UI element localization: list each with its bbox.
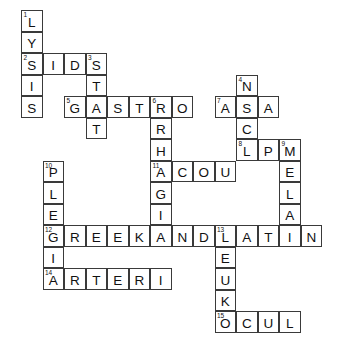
- crossword-cell[interactable]: C: [236, 311, 258, 333]
- crossword-cell[interactable]: A: [150, 225, 172, 247]
- crossword-cell[interactable]: T: [86, 75, 108, 97]
- cell-letter: O: [194, 166, 214, 180]
- crossword-cell[interactable]: K: [215, 290, 237, 312]
- crossword-cell[interactable]: R: [64, 225, 86, 247]
- crossword-cell[interactable]: I: [150, 268, 172, 290]
- crossword-cell[interactable]: D: [64, 53, 86, 75]
- cell-letter: G: [151, 188, 171, 202]
- crossword-cell[interactable]: S: [236, 96, 258, 118]
- crossword-cell[interactable]: U: [215, 161, 237, 183]
- cell-letter: E: [108, 231, 128, 245]
- crossword-cell[interactable]: E: [215, 247, 237, 269]
- crossword-cell[interactable]: 10P: [43, 161, 65, 183]
- cell-letter: L: [22, 16, 42, 30]
- crossword-cell[interactable]: Y: [21, 32, 43, 54]
- crossword-cell[interactable]: E: [43, 204, 65, 226]
- cell-letter: P: [259, 145, 279, 159]
- cell-letter: I: [22, 80, 42, 94]
- crossword-cell[interactable]: L: [279, 182, 301, 204]
- crossword-cell[interactable]: I: [43, 53, 65, 75]
- crossword-cell[interactable]: N: [301, 225, 323, 247]
- crossword-cell[interactable]: 1L: [21, 10, 43, 32]
- crossword-cell[interactable]: 13L: [215, 225, 237, 247]
- cell-letter: L: [280, 188, 300, 202]
- cell-letter: R: [65, 231, 85, 245]
- cell-letter: T: [130, 102, 150, 116]
- crossword-cell[interactable]: R: [64, 268, 86, 290]
- cell-letter: T: [87, 274, 107, 288]
- crossword-cell[interactable]: T: [129, 96, 151, 118]
- cell-letter: D: [194, 231, 214, 245]
- crossword-cell[interactable]: I: [279, 225, 301, 247]
- crossword-cell[interactable]: A: [86, 96, 108, 118]
- cell-letter: E: [87, 231, 107, 245]
- crossword-cell[interactable]: 9M: [279, 139, 301, 161]
- crossword-cell[interactable]: C: [236, 118, 258, 140]
- cell-letter: L: [44, 188, 64, 202]
- crossword-cell[interactable]: R: [150, 118, 172, 140]
- cell-letter: I: [44, 59, 64, 73]
- crossword-cell[interactable]: K: [129, 225, 151, 247]
- crossword-cell[interactable]: E: [107, 225, 129, 247]
- crossword-cell[interactable]: 4N: [236, 75, 258, 97]
- cell-letter: K: [130, 231, 150, 245]
- crossword-cell[interactable]: C: [172, 161, 194, 183]
- crossword-cell[interactable]: O: [193, 161, 215, 183]
- cell-letter: N: [302, 231, 322, 245]
- crossword-cell[interactable]: 15O: [215, 311, 237, 333]
- cell-letter: S: [87, 59, 107, 73]
- crossword-cell[interactable]: I: [150, 204, 172, 226]
- cell-letter: I: [44, 252, 64, 266]
- crossword-cell[interactable]: D: [193, 225, 215, 247]
- crossword-cell[interactable]: S: [107, 96, 129, 118]
- crossword-cell[interactable]: L: [279, 311, 301, 333]
- crossword-cell[interactable]: N: [172, 225, 194, 247]
- crossword-cell[interactable]: 14A: [43, 268, 65, 290]
- cell-letter: C: [237, 123, 257, 137]
- crossword-cell[interactable]: U: [215, 268, 237, 290]
- crossword-cell[interactable]: P: [258, 139, 280, 161]
- crossword-cell[interactable]: 12G: [43, 225, 65, 247]
- cell-letter: R: [130, 274, 150, 288]
- cell-letter: O: [173, 102, 193, 116]
- crossword-cell[interactable]: R: [129, 268, 151, 290]
- crossword-cell[interactable]: U: [258, 311, 280, 333]
- cell-letter: I: [151, 274, 171, 288]
- crossword-cell[interactable]: 5G: [64, 96, 86, 118]
- cell-letter: S: [22, 102, 42, 116]
- crossword-cell[interactable]: L: [43, 182, 65, 204]
- cell-letter: U: [216, 166, 236, 180]
- cell-letter: G: [44, 231, 64, 245]
- crossword-cell[interactable]: G: [150, 182, 172, 204]
- cell-letter: T: [259, 231, 279, 245]
- crossword-cell[interactable]: T: [86, 268, 108, 290]
- cell-letter: U: [216, 274, 236, 288]
- cell-letter: S: [237, 102, 257, 116]
- crossword-cell[interactable]: T: [258, 225, 280, 247]
- crossword-cell[interactable]: 8L: [236, 139, 258, 161]
- cell-letter: C: [173, 166, 193, 180]
- crossword-cell[interactable]: A: [279, 204, 301, 226]
- crossword-cell[interactable]: E: [279, 161, 301, 183]
- cell-letter: N: [237, 80, 257, 94]
- crossword-cell[interactable]: 3S: [86, 53, 108, 75]
- cell-letter: I: [151, 209, 171, 223]
- crossword-cell[interactable]: I: [43, 247, 65, 269]
- cell-letter: S: [22, 59, 42, 73]
- crossword-cell[interactable]: 2S: [21, 53, 43, 75]
- crossword-cell[interactable]: T: [86, 118, 108, 140]
- cell-letter: G: [65, 102, 85, 116]
- crossword-cell[interactable]: 7A: [215, 96, 237, 118]
- cell-letter: T: [87, 80, 107, 94]
- crossword-cell[interactable]: 6R: [150, 96, 172, 118]
- crossword-cell[interactable]: A: [236, 225, 258, 247]
- crossword-cell[interactable]: A: [258, 96, 280, 118]
- crossword-cell[interactable]: O: [172, 96, 194, 118]
- crossword-cell[interactable]: E: [86, 225, 108, 247]
- crossword-cell[interactable]: I: [21, 75, 43, 97]
- crossword-cell[interactable]: H: [150, 139, 172, 161]
- cell-letter: N: [173, 231, 193, 245]
- crossword-cell[interactable]: E: [107, 268, 129, 290]
- crossword-cell[interactable]: 11A: [150, 161, 172, 183]
- crossword-cell[interactable]: S: [21, 96, 43, 118]
